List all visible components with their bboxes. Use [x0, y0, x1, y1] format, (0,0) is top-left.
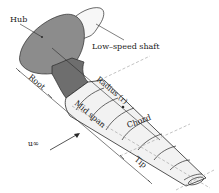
shaft-label: Low–speed shaft [92, 42, 160, 51]
root-label: Root [27, 73, 48, 93]
hub-label: Hub [10, 15, 27, 24]
shaft-leader [96, 24, 124, 40]
freestream-label: u∞ [28, 139, 39, 148]
freestream-arrow [50, 133, 80, 150]
wind-turbine-blade-diagram: Hub Low–speed shaft Root Mid span Tip Ra… [0, 0, 219, 193]
radius-point [122, 106, 125, 109]
